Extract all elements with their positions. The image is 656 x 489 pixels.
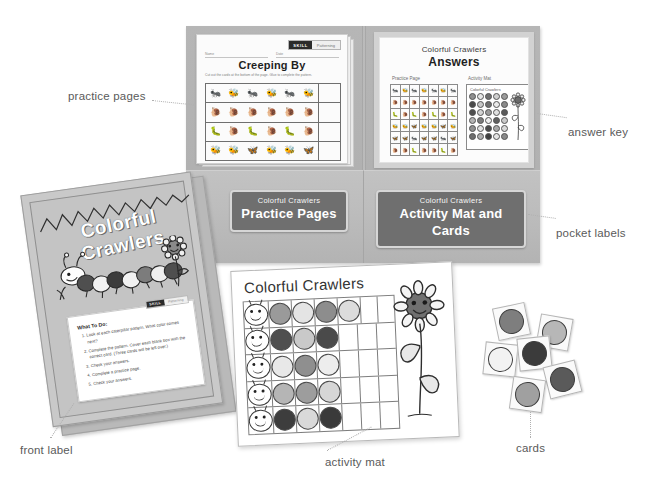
- practice-page-row: 🐝🐝🦋🐝🐝🦋: [206, 142, 340, 160]
- activity-mat-empty-cell[interactable]: [360, 376, 380, 402]
- activity-mat-filled-cell[interactable]: [292, 299, 316, 326]
- activity-mat-filled-cell[interactable]: [269, 300, 293, 327]
- caterpillar-face-icon: [244, 303, 269, 326]
- what-to-do-steps: Look at each caterpillar pattern. What c…: [78, 318, 196, 388]
- eye-left: [252, 363, 255, 366]
- activity-mat-empty-cell[interactable]: [358, 323, 378, 349]
- activity-mat-body-dot: [319, 406, 342, 429]
- activity-mat-filled-cell[interactable]: [293, 326, 317, 353]
- card-4[interactable]: [542, 359, 582, 399]
- answer-key-bug-icon: 🐜: [410, 85, 420, 96]
- practice-page-top[interactable]: SKILL Patterning Name Date Creeping By C…: [196, 34, 348, 164]
- practice-page-bug-icon: 🐝: [225, 142, 244, 160]
- leader-answer-key: [537, 113, 567, 118]
- activity-mat-filled-cell[interactable]: [270, 327, 294, 354]
- pocket-label-practice-pages[interactable]: Colorful Crawlers Practice Pages: [230, 190, 348, 232]
- activity-mat-row: [248, 402, 399, 434]
- practice-page-bug-icon: 🐌: [225, 123, 244, 141]
- practice-page-bug-icon: 🐌: [206, 103, 225, 121]
- activity-mat-empty-cell[interactable]: [359, 350, 379, 376]
- activity-mat-body-dot: [338, 299, 361, 322]
- practice-page-bug-icon: 🐜: [206, 84, 225, 102]
- activity-mat-empty-cell[interactable]: [339, 324, 359, 350]
- answer-key-bug-icon: 🐜: [439, 132, 449, 143]
- answer-key-row: 🦋🦋🐜🦋🦋🐜🦋: [391, 132, 457, 144]
- card-color-dot: [547, 364, 577, 394]
- practice-pages-stack[interactable]: SKILL Patterning Name Date Creeping By C…: [196, 34, 354, 166]
- card-0[interactable]: [492, 302, 531, 341]
- activity-mat-filled-cell[interactable]: [273, 407, 297, 434]
- answer-key-bug-icon: 🐝: [429, 120, 439, 131]
- answer-key-inner: Colorful Crawlers Answers Practice Page …: [379, 37, 529, 163]
- caterpillar-face-icon: [246, 356, 271, 379]
- caterpillar-face-icon: [245, 330, 270, 353]
- activity-mat-filled-cell[interactable]: [295, 379, 319, 406]
- activity-mat-empty-cell[interactable]: [340, 351, 360, 377]
- pocket-label-activity-mat-and-cards[interactable]: Colorful Crawlers Activity Mat and Cards: [376, 190, 526, 248]
- practice-page-answer-cell[interactable]: [318, 123, 340, 141]
- card-color-dot: [497, 307, 527, 337]
- answer-key-mat-dot: [485, 133, 492, 140]
- activity-mat[interactable]: Colorful Crawlers: [230, 261, 459, 447]
- answer-key-mat-dot: [493, 93, 500, 100]
- activity-mat-filled-cell[interactable]: [271, 353, 295, 380]
- activity-mat-caterpillar-head: [248, 408, 274, 435]
- practice-page-pattern-cells: 🐛🐌🐛🐌🐛🐌: [206, 123, 318, 141]
- callout-practice-pages: practice pages: [68, 90, 146, 102]
- activity-mat-empty-cell[interactable]: [342, 404, 362, 430]
- activity-mat-filled-cell[interactable]: [296, 406, 320, 433]
- pocket-label-left-sub: Colorful Crawlers: [238, 197, 340, 205]
- activity-mat-filled-cell[interactable]: [272, 380, 296, 407]
- front-label-border: Colorful Crawlers: [29, 181, 214, 419]
- activity-mat-filled-cell[interactable]: [338, 297, 362, 324]
- name-field-label: Name: [205, 52, 268, 58]
- practice-page-instructions: Cut out the cards at the bottom of the p…: [205, 73, 339, 78]
- activity-mat-filled-cell[interactable]: [294, 352, 318, 379]
- practice-page-pattern-cells: 🐝🐝🦋🐝🐝🦋: [206, 142, 318, 160]
- pocket-label-right-main: Activity Mat and Cards: [384, 206, 518, 239]
- activity-mat-caterpillar-head: [245, 328, 271, 355]
- answer-key-bug-icon: 🐝: [391, 120, 401, 131]
- answer-key-mat-dot: [501, 133, 508, 140]
- practice-page-name-row: Name Date: [205, 52, 339, 58]
- practice-page-row: 🐜🐝🐜🐝🐜🐝: [206, 84, 340, 103]
- activity-mat-filled-cell[interactable]: [318, 378, 342, 405]
- practice-page-bug-icon: 🐌: [299, 103, 318, 121]
- activity-mat-filled-cell[interactable]: [317, 351, 341, 378]
- front-label-card[interactable]: Colorful Crawlers: [20, 171, 223, 427]
- answer-key-bug-icon: 🐝: [401, 85, 411, 96]
- activity-mat-title: Colorful Crawlers: [244, 274, 365, 296]
- practice-page-bug-icon: 🐌: [280, 103, 299, 121]
- answer-key-mat-dot: [485, 125, 492, 132]
- answer-key-mat-dot: [485, 93, 492, 100]
- activity-mat-empty-cell[interactable]: [341, 377, 361, 403]
- answer-key-mat-dot: [477, 109, 484, 116]
- answer-key-bug-icon: 🦋: [410, 120, 420, 131]
- card-5[interactable]: [509, 376, 546, 413]
- callout-pocket-labels: pocket labels: [556, 227, 626, 239]
- activity-mat-caterpillar-head: [246, 354, 272, 381]
- answer-key-mat-dot: [469, 125, 476, 132]
- answer-key-bug-icon: 🐜: [448, 85, 457, 96]
- answer-key-bug-icon: 🦋: [448, 132, 457, 143]
- activity-mat-filled-cell[interactable]: [316, 325, 340, 352]
- activity-mat-body-dot: [318, 380, 341, 403]
- card-2[interactable]: [482, 341, 518, 377]
- answer-key-bug-icon: 🐝: [401, 120, 411, 131]
- activity-mat-empty-cell[interactable]: [361, 297, 379, 323]
- practice-page-answer-cell[interactable]: [318, 142, 340, 160]
- front-label-group[interactable]: Colorful Crawlers: [20, 171, 227, 431]
- activity-mat-filled-cell[interactable]: [315, 298, 339, 325]
- what-to-do-card: SKILL Patterning What To Do: Look at eac…: [67, 299, 206, 402]
- answer-key-bug-icon: 🐝: [420, 85, 430, 96]
- practice-page-answer-cell[interactable]: [318, 103, 340, 121]
- answer-key-bug-icon: 🐌: [391, 144, 401, 155]
- practice-page-bug-icon: 🐝: [262, 142, 281, 160]
- practice-page-row: 🐌🐌🐌🐌🐌🐌: [206, 103, 340, 122]
- activity-mat-body-dot: [294, 354, 317, 377]
- practice-page-answer-cell[interactable]: [318, 84, 340, 102]
- answer-key-page[interactable]: Colorful Crawlers Answers Practice Page …: [374, 32, 534, 168]
- activity-mat-empty-cell[interactable]: [361, 403, 381, 429]
- activity-mat-body-dot: [296, 407, 319, 430]
- activity-mat-filled-cell[interactable]: [319, 405, 343, 432]
